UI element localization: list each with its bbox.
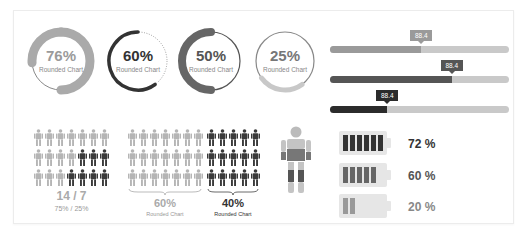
donut-percent: 60% bbox=[104, 47, 172, 64]
person-icon bbox=[45, 149, 54, 166]
battery-cell bbox=[378, 135, 383, 151]
battery-label: 72 % bbox=[408, 137, 435, 151]
people-grid-dark bbox=[207, 129, 260, 186]
person-icon bbox=[34, 129, 43, 146]
donut-arc bbox=[262, 78, 303, 90]
battery-cell bbox=[343, 198, 348, 214]
person-icon bbox=[161, 149, 170, 166]
battery-icon bbox=[339, 163, 391, 187]
person-icon bbox=[229, 169, 238, 186]
brace-light bbox=[128, 188, 202, 196]
person-icon bbox=[67, 169, 76, 186]
donut-percent: 25% bbox=[251, 47, 319, 64]
person-icon bbox=[194, 169, 203, 186]
battery-label: 60 % bbox=[408, 169, 435, 183]
person-icon bbox=[183, 149, 192, 166]
person-icon bbox=[139, 169, 148, 186]
battery-cell bbox=[350, 198, 355, 214]
person-icon bbox=[78, 129, 87, 146]
person-icon bbox=[56, 169, 65, 186]
person-icon bbox=[172, 149, 181, 166]
battery-cell bbox=[364, 167, 369, 183]
battery-cell bbox=[371, 135, 376, 151]
light-percent: 60% bbox=[128, 197, 202, 209]
human-body-icon bbox=[280, 126, 312, 196]
progress-fill bbox=[330, 76, 452, 83]
person-icon bbox=[183, 129, 192, 146]
person-icon bbox=[56, 129, 65, 146]
person-icon bbox=[100, 129, 109, 146]
person-icon bbox=[139, 129, 148, 146]
person-icon bbox=[128, 169, 137, 186]
person-icon bbox=[229, 129, 238, 146]
donut-percent: 76% bbox=[27, 47, 95, 64]
dark-percent: 40% bbox=[207, 197, 259, 209]
person-icon bbox=[67, 149, 76, 166]
person-icon bbox=[67, 129, 76, 146]
person-icon bbox=[128, 149, 137, 166]
person-icon bbox=[161, 169, 170, 186]
person-icon bbox=[78, 169, 87, 186]
person-icon bbox=[100, 169, 109, 186]
person-icon bbox=[218, 129, 227, 146]
progress-bar: 88.4 bbox=[330, 46, 509, 53]
person-icon bbox=[240, 169, 249, 186]
person-icon bbox=[183, 169, 192, 186]
ratio-percent-text: 75% / 25% bbox=[34, 205, 109, 212]
person-icon bbox=[172, 169, 181, 186]
donut-percent: 50% bbox=[177, 47, 245, 64]
person-icon bbox=[78, 149, 87, 166]
person-icon bbox=[89, 129, 98, 146]
battery-cell bbox=[364, 135, 369, 151]
person-icon bbox=[240, 129, 249, 146]
person-icon bbox=[207, 169, 216, 186]
person-icon bbox=[229, 149, 238, 166]
person-icon bbox=[150, 169, 159, 186]
brace-dark bbox=[207, 188, 259, 196]
progress-fill bbox=[330, 46, 421, 53]
battery-cell bbox=[350, 135, 355, 151]
donut-label: Rounded Chart bbox=[177, 66, 245, 73]
person-icon bbox=[89, 169, 98, 186]
person-icon bbox=[240, 149, 249, 166]
dark-label: Rounded Chart bbox=[207, 211, 259, 217]
battery-icon bbox=[339, 194, 391, 218]
person-icon bbox=[150, 129, 159, 146]
person-icon bbox=[34, 169, 43, 186]
donut-label: Rounded Chart bbox=[27, 66, 95, 73]
battery-cell bbox=[343, 135, 348, 151]
person-icon bbox=[207, 149, 216, 166]
people-grid-light bbox=[128, 129, 203, 186]
person-icon bbox=[45, 129, 54, 146]
progress-tooltip: 88.4 bbox=[376, 90, 398, 101]
person-icon bbox=[128, 129, 137, 146]
battery-cell bbox=[357, 167, 362, 183]
battery-label: 20 % bbox=[408, 200, 435, 214]
person-icon bbox=[161, 129, 170, 146]
person-icon bbox=[218, 149, 227, 166]
donut-chart-76: 76% Rounded Chart bbox=[27, 27, 95, 95]
person-icon bbox=[251, 169, 260, 186]
person-icon bbox=[194, 149, 203, 166]
battery-cell bbox=[357, 135, 362, 151]
progress-fill bbox=[330, 106, 387, 113]
person-icon bbox=[194, 129, 203, 146]
donut-chart-25: 25% Rounded Chart bbox=[251, 27, 319, 95]
progress-tooltip: 88.4 bbox=[441, 60, 463, 71]
person-icon bbox=[89, 149, 98, 166]
battery-cell bbox=[350, 167, 355, 183]
person-icon bbox=[207, 129, 216, 146]
battery-icon bbox=[339, 131, 391, 155]
person-icon bbox=[172, 129, 181, 146]
person-icon bbox=[45, 169, 54, 186]
person-icon bbox=[100, 149, 109, 166]
person-icon bbox=[139, 149, 148, 166]
person-icon bbox=[150, 149, 159, 166]
progress-tooltip: 88.4 bbox=[410, 30, 432, 41]
progress-bar: 88.4 bbox=[330, 106, 509, 113]
donut-label: Rounded Chart bbox=[251, 66, 319, 73]
ratio-text: 14 / 7 bbox=[34, 189, 109, 203]
light-label: Rounded Chart bbox=[128, 211, 202, 217]
people-grid-ratio bbox=[34, 129, 109, 186]
battery-cell bbox=[343, 167, 348, 183]
